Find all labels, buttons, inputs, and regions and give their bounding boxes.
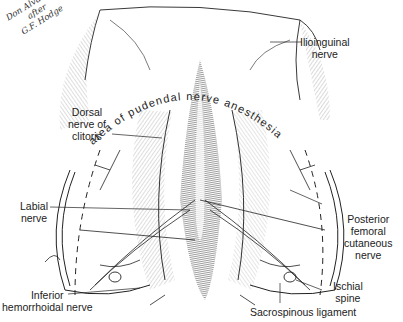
label-line: femoral <box>344 225 392 237</box>
label-inferior-hemorrhoidal-nerve: Inferior hemorrhoidal nerve <box>2 289 92 313</box>
anatomy-figure: area of pudendal nerve anesthesia Don Al… <box>0 0 403 322</box>
label-ilioinguinal-nerve: Ilioinguinal nerve <box>300 36 350 60</box>
label-line: Dorsal <box>68 106 106 118</box>
label-dorsal-nerve-of-clitoris: Dorsal nerve of clitoris <box>68 106 106 142</box>
label-line: Inferior <box>2 289 92 301</box>
label-line: nerve <box>344 249 392 261</box>
label-line: spine <box>333 292 363 304</box>
label-line: cutaneous <box>344 237 392 249</box>
label-line: clitoris <box>68 130 106 142</box>
label-posterior-femoral-cutaneous-nerve: Posterior femoral cutaneous nerve <box>344 213 392 261</box>
label-line: Posterior <box>344 213 392 225</box>
label-labial-nerve: Labial nerve <box>20 200 48 224</box>
label-ischial-spine: Ischial spine <box>333 280 363 304</box>
label-line: Labial <box>20 200 48 212</box>
label-sacrospinous-ligament: Sacrospinous ligament <box>250 306 356 318</box>
label-line: Ilioinguinal <box>300 36 350 48</box>
label-line: Ischial <box>333 280 363 292</box>
label-line: nerve of <box>68 118 106 130</box>
label-line: hemorrhoidal nerve <box>2 301 92 313</box>
label-line: nerve <box>20 212 48 224</box>
label-line: nerve <box>300 48 350 60</box>
